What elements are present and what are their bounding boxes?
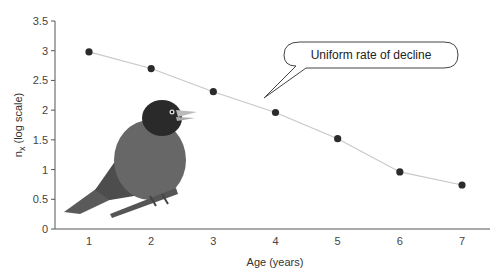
data-point (458, 181, 465, 188)
y-tick-label: 2 (42, 104, 48, 116)
data-point (148, 65, 155, 72)
y-tick-label: 0.5 (33, 193, 48, 205)
y-axis-label: nx (log scale) (12, 93, 27, 157)
y-tick-label: 1.5 (33, 134, 48, 146)
y-tick-label: 2.5 (33, 74, 48, 86)
y-tick-label: 3.5 (33, 15, 48, 27)
x-tick-label: 2 (148, 235, 154, 247)
bird-illustration (64, 100, 197, 218)
data-point (396, 168, 403, 175)
x-tick-label: 4 (272, 235, 278, 247)
x-axis: 1234567 (55, 229, 490, 247)
x-tick-label: 3 (210, 235, 216, 247)
y-tick-label: 0 (42, 223, 48, 235)
data-point (334, 135, 341, 142)
survivorship-chart: 00.511.522.533.5 1234567 nx (log scale) … (0, 0, 504, 280)
data-point (85, 48, 92, 55)
y-axis: 00.511.522.533.5 (33, 15, 55, 235)
data-point (272, 109, 279, 116)
x-tick-label: 5 (335, 235, 341, 247)
callout-annotation: Uniform rate of decline (264, 42, 458, 98)
data-point (210, 88, 217, 95)
y-tick-label: 1 (42, 164, 48, 176)
callout-text: Uniform rate of decline (311, 48, 432, 62)
x-tick-label: 7 (459, 235, 465, 247)
x-axis-label: Age (years) (247, 256, 304, 268)
x-tick-label: 6 (397, 235, 403, 247)
x-tick-label: 1 (86, 235, 92, 247)
y-tick-label: 3 (42, 45, 48, 57)
